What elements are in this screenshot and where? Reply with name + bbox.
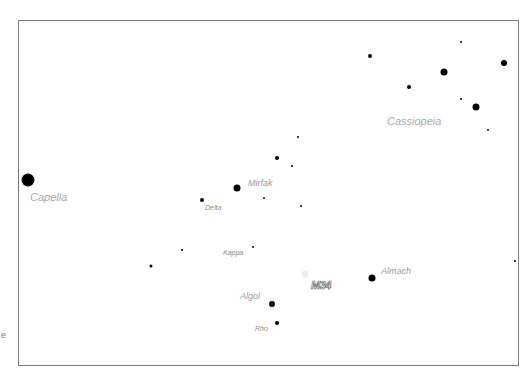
m34-cluster-marker[interactable] <box>302 271 309 278</box>
star[interactable] <box>441 69 448 76</box>
label-cassiopeia: Cassiopeia <box>387 116 441 127</box>
star[interactable] <box>181 249 183 251</box>
star[interactable] <box>263 197 265 199</box>
star-rho[interactable] <box>275 321 279 325</box>
edge-label: e <box>1 330 6 340</box>
m34-label: M34 <box>311 279 331 291</box>
star[interactable] <box>460 41 462 43</box>
star[interactable] <box>275 156 279 160</box>
star[interactable] <box>407 85 411 89</box>
label-capella: Capella <box>30 192 67 203</box>
label-kappa: Kappa <box>223 249 243 256</box>
label-mirfak: Mirfak <box>248 179 273 188</box>
star-delta[interactable] <box>200 198 204 202</box>
star-mirfak[interactable] <box>234 185 241 192</box>
star-almach[interactable] <box>369 275 376 282</box>
star[interactable] <box>150 265 153 268</box>
star-kappa[interactable] <box>252 246 254 248</box>
star[interactable] <box>487 129 489 131</box>
star[interactable] <box>291 165 293 167</box>
star[interactable] <box>460 98 462 100</box>
star-capella[interactable] <box>22 174 35 187</box>
star[interactable] <box>297 136 299 138</box>
star[interactable] <box>368 54 372 58</box>
star[interactable] <box>501 60 507 66</box>
star[interactable] <box>300 205 302 207</box>
star-algol[interactable] <box>269 301 275 307</box>
star[interactable] <box>514 260 516 262</box>
star[interactable] <box>473 104 480 111</box>
label-rho: Rho <box>255 325 268 332</box>
label-almach: Almach <box>381 267 411 276</box>
label-algol: Algol <box>240 292 260 301</box>
label-delta: Delta <box>205 204 221 211</box>
